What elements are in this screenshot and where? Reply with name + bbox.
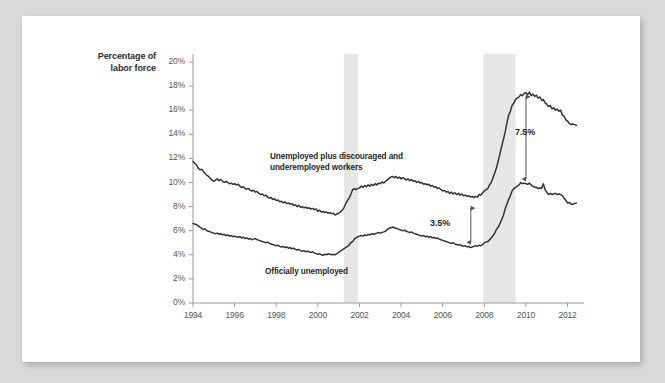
series-label-broad-line2: underemployed workers — [270, 163, 403, 174]
annotation-label-gap-small: 3.5% — [430, 218, 450, 228]
y-tick-label: 0% — [151, 297, 185, 307]
x-tick-label: 1996 — [215, 310, 255, 320]
series-label-broad: Unemployed plus discouraged and underemp… — [270, 152, 403, 173]
y-axis-title-line1: Percentage of — [74, 51, 156, 63]
y-tick-label: 20% — [151, 56, 185, 66]
x-tick-label: 2004 — [381, 310, 421, 320]
x-tick-label: 2010 — [506, 310, 546, 320]
x-tick-label: 1998 — [256, 310, 296, 320]
y-axis-title-line2: labor force — [74, 63, 156, 75]
unemployment-chart: Percentage of labor force Unemployed plu… — [0, 0, 665, 383]
recession-2008 — [483, 54, 515, 303]
y-tick-label: 8% — [151, 201, 185, 211]
x-tick-label: 2002 — [339, 310, 379, 320]
x-tick-label: 2006 — [423, 310, 463, 320]
recession-bands-layer — [344, 54, 516, 303]
y-tick-label: 18% — [151, 80, 185, 90]
series-label-official: Officially unemployed — [265, 267, 348, 278]
y-tick-label: 12% — [151, 152, 185, 162]
y-tick-label: 2% — [151, 273, 185, 283]
y-tick-label: 14% — [151, 128, 185, 138]
series-lines-layer — [193, 92, 576, 255]
x-tick-label: 2012 — [548, 310, 588, 320]
y-tick-label: 10% — [151, 177, 185, 187]
x-tick-label: 2000 — [298, 310, 338, 320]
y-tick-label: 4% — [151, 249, 185, 259]
y-tick-label: 6% — [151, 225, 185, 235]
y-tick-label: 16% — [151, 104, 185, 114]
x-tick-label: 1994 — [173, 310, 213, 320]
series-label-broad-line1: Unemployed plus discouraged and — [270, 152, 403, 163]
annotation-label-gap-large: 7.5% — [515, 127, 535, 137]
x-tick-label: 2008 — [464, 310, 504, 320]
recession-2001 — [344, 54, 358, 303]
series-line-official — [193, 183, 576, 256]
